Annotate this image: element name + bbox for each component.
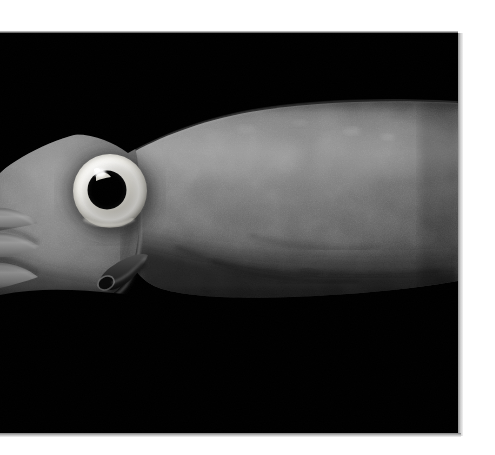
photo-caption [0,437,495,455]
squid-illustration [0,33,458,433]
photo-right-shadow [458,33,463,436]
page-canvas [0,0,495,455]
squid-photograph [0,33,458,433]
photo-edge-blending [0,33,458,433]
